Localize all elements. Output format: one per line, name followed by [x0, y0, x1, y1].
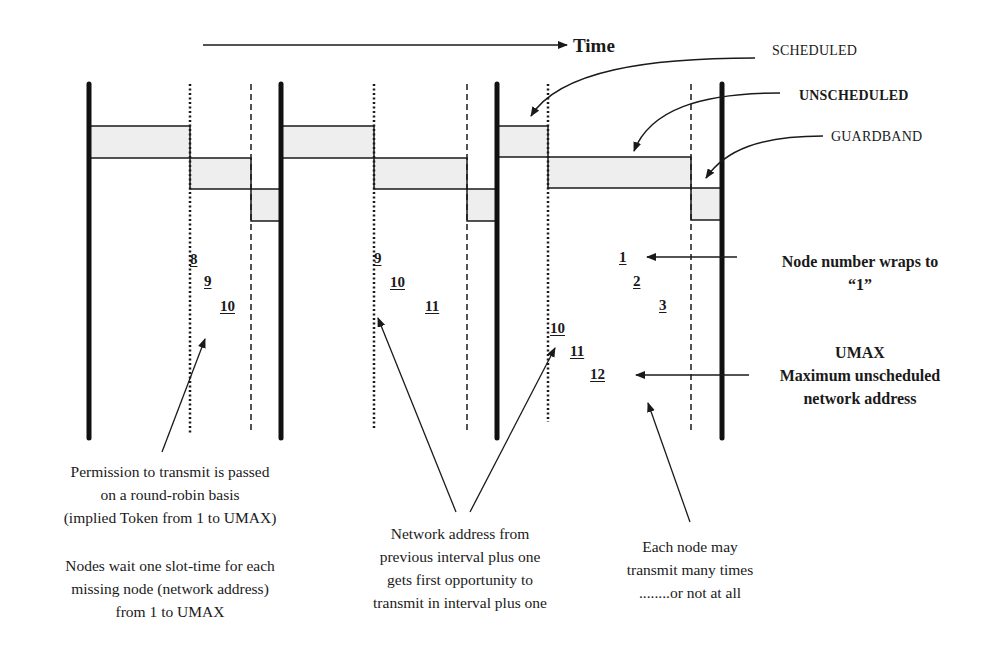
guardband-bar — [467, 189, 497, 221]
umax-note-line: Maximum unscheduled — [750, 364, 970, 387]
node-number: 9 — [204, 274, 212, 289]
umax-note: UMAX Maximum unscheduled network address — [750, 341, 970, 410]
round-robin-pointer — [162, 339, 205, 452]
note-line: Permission to transmit is passed — [20, 460, 320, 483]
note-line: gets first opportunity to — [330, 568, 590, 591]
node-number: 12 — [590, 367, 605, 382]
legend-scheduled: SCHEDULED — [772, 44, 857, 58]
wrap-note-line: Node number wraps to — [750, 250, 970, 273]
node-number: 8 — [190, 252, 198, 267]
unscheduled-bar — [190, 158, 251, 189]
interval-1-bars — [90, 126, 281, 221]
time-label: Time — [573, 36, 615, 55]
node-number: 10 — [220, 299, 235, 314]
note-line: from 1 to UMAX — [20, 600, 320, 623]
note-line: previous interval plus one — [330, 545, 590, 568]
note-line: Network address from — [330, 522, 590, 545]
guardband-bar — [251, 189, 281, 221]
round-robin-note: Permission to transmit is passed on a ro… — [20, 460, 320, 529]
interval-3-bars — [498, 126, 722, 220]
wrap-note-line: “1” — [750, 273, 970, 296]
note-line: transmit many times — [600, 558, 780, 581]
scheduled-bar — [282, 126, 374, 158]
many-times-pointer — [648, 403, 690, 522]
note-line: missing node (network address) — [20, 577, 320, 600]
interval-2-bars — [282, 126, 497, 221]
node-number: 2 — [633, 274, 641, 289]
unscheduled-pointer — [634, 93, 780, 151]
note-line: on a round-robin basis — [20, 483, 320, 506]
umax-note-line: UMAX — [750, 341, 970, 364]
node-pointers — [636, 257, 749, 375]
unscheduled-bar — [548, 157, 691, 188]
legend-guardband: GUARDBAND — [831, 130, 922, 144]
legend-unscheduled: UNSCHEDULED — [799, 89, 909, 103]
each-node-note: Each node may transmit many times ......… — [600, 535, 780, 604]
note-line: (implied Token from 1 to UMAX) — [20, 506, 320, 529]
node-number: 9 — [374, 251, 382, 266]
guardband-bar — [691, 188, 722, 220]
node-number: 10 — [390, 275, 405, 290]
note-line: Nodes wait one slot-time for each — [20, 554, 320, 577]
node-number: 1 — [619, 250, 627, 265]
prev-interval-pointer-b — [470, 348, 555, 512]
scheduled-bar — [90, 126, 190, 158]
node-number: 11 — [570, 344, 584, 359]
note-line: transmit in interval plus one — [330, 591, 590, 614]
unscheduled-bar — [374, 158, 467, 189]
wrap-note: Node number wraps to “1” — [750, 250, 970, 296]
node-number: 3 — [659, 298, 667, 313]
wait-note: Nodes wait one slot-time for each missin… — [20, 554, 320, 623]
scheduled-bar — [498, 126, 548, 157]
note-line: ........or not at all — [600, 581, 780, 604]
node-number: 10 — [550, 321, 565, 336]
first-opportunity-note: Network address from previous interval p… — [330, 522, 590, 614]
prev-interval-pointer-a — [378, 318, 456, 512]
note-line: Each node may — [600, 535, 780, 558]
umax-note-line: network address — [750, 387, 970, 410]
node-number: 11 — [425, 299, 439, 314]
